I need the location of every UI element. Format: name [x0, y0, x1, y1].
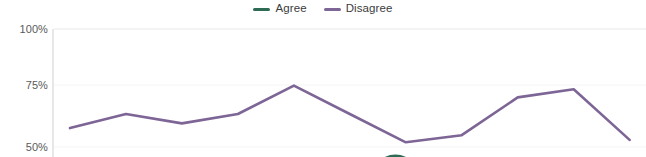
plot-area [0, 18, 646, 157]
line-chart: Agree Disagree 100% 75% 50% [0, 0, 646, 157]
legend-label-disagree: Disagree [346, 3, 393, 15]
series-agree-line [378, 156, 414, 157]
series-disagree-line [70, 86, 630, 143]
legend-label-agree: Agree [275, 3, 306, 15]
legend-item-agree[interactable]: Agree [253, 3, 306, 15]
legend-swatch-agree-icon [253, 8, 270, 11]
legend-swatch-disagree-icon [324, 8, 341, 11]
series-agree [378, 156, 414, 157]
plot-svg [0, 18, 646, 157]
series-disagree [70, 86, 630, 143]
legend-item-disagree[interactable]: Disagree [324, 3, 393, 15]
gridlines [54, 29, 646, 147]
chart-legend: Agree Disagree [0, 0, 646, 18]
